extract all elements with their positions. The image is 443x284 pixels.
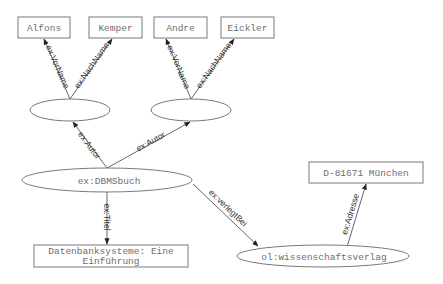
node-alfons: Alfons: [18, 17, 70, 38]
node-dbmsbuch: ex:DBMSbuch: [22, 168, 192, 192]
node-adresse-label: D-81671 München: [323, 168, 409, 179]
node-dbmsbuch-label: ex:DBMSbuch: [78, 176, 141, 187]
edge-verlegtbei: [193, 184, 258, 246]
node-blank-author-1-ellipse: [30, 99, 110, 121]
edge-label-titel: ex:Titel: [102, 203, 112, 230]
node-eickler: Eickler: [221, 17, 274, 38]
node-verlag: ol:wissenschaftsverlag: [237, 245, 409, 267]
node-andre-label: Andre: [166, 23, 195, 34]
node-adresse: D-81671 München: [309, 162, 423, 183]
edge-label-nachname-1: ex:NachName: [72, 40, 111, 90]
node-blank-author-2-ellipse: [151, 99, 231, 121]
node-titel-label-line-2: Einführung: [82, 256, 139, 267]
node-titel: Datenbanksysteme: Eine Einführung: [34, 245, 188, 267]
node-andre: Andre: [154, 17, 207, 38]
edge-label-autor-1: ex:Autor: [76, 130, 103, 162]
edge-labels: ex:VorName ex:NachName ex:VorName ex:Nac…: [44, 40, 361, 236]
edge-label-adresse: ex:Adresse: [339, 192, 361, 236]
node-blank-author-2: [151, 99, 231, 121]
edge-label-verlegtbei: ex:verlegtBei: [207, 187, 250, 228]
rdf-graph-diagram: ex:VorName ex:NachName ex:VorName ex:Nac…: [0, 0, 443, 284]
edge-label-vorname-1: ex:VorName: [44, 43, 72, 90]
node-kemper: Kemper: [89, 17, 142, 38]
node-kemper-label: Kemper: [98, 23, 132, 34]
edge-label-vorname-2: ex:VorName: [165, 43, 192, 90]
node-eickler-label: Eickler: [228, 23, 268, 34]
node-alfons-label: Alfons: [27, 23, 61, 34]
edge-label-autor-2: ex:Autor: [134, 129, 167, 153]
node-verlag-label: ol:wissenschaftsverlag: [261, 252, 386, 263]
edge-label-nachname-2: ex:NachName: [194, 40, 234, 90]
node-blank-author-1: [30, 99, 110, 121]
